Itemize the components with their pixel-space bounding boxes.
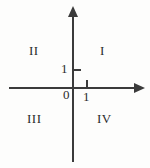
x-axis-tick-1 <box>86 80 88 88</box>
y-axis-arrow-icon <box>68 6 78 17</box>
y-axis-tick-label-1: 1 <box>61 62 68 75</box>
quadrant-label-iv: IV <box>97 112 112 125</box>
x-axis-arrow-icon <box>134 83 145 93</box>
y-axis-line <box>72 15 74 162</box>
y-axis-tick-1 <box>73 69 81 71</box>
quadrant-label-ii: II <box>29 44 39 57</box>
quadrant-label-i: I <box>100 44 105 57</box>
x-axis-tick-label-1: 1 <box>83 90 90 103</box>
x-axis-line <box>9 87 140 89</box>
origin-label: 0 <box>63 88 70 101</box>
coordinate-plane-figure: 1 0 1 I II III IV <box>0 0 150 168</box>
quadrant-label-iii: III <box>27 112 42 125</box>
